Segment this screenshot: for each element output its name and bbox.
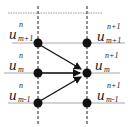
arrow-m-plus-1-to-target: [40, 45, 81, 69]
arrow-m-minus-1-to-target: [40, 77, 81, 101]
node-n-m: [34, 69, 43, 78]
label-u-n-plus-1-m-plus-1: u n+1 m+1: [97, 28, 105, 44]
label-u-n-plus-1-m-minus-1: u n+1 m-1: [97, 87, 105, 103]
node-n-plus-1-m-minus-1: [83, 99, 92, 108]
node-n-m-minus-1: [34, 99, 43, 108]
label-u-n-m-plus-1: u n m+1: [9, 26, 17, 42]
node-n-plus-1-m-plus-1: [83, 39, 92, 48]
label-u-n-plus-1-m: u n+1 m: [95, 57, 103, 73]
node-n-m-plus-1: [34, 39, 43, 48]
node-n-plus-1-m: [83, 69, 92, 78]
label-u-n-m-minus-1: u n m-1: [9, 87, 17, 103]
label-u-n-m: u n m: [9, 57, 17, 73]
